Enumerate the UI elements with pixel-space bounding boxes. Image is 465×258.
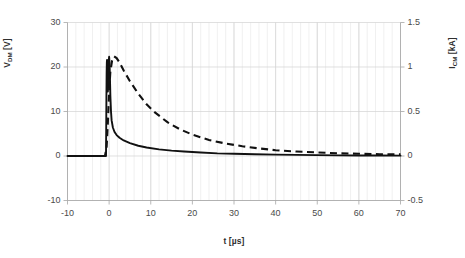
tick-label-y-left: 30 [21, 17, 61, 27]
y-right-title-sub: CM [451, 57, 458, 67]
tick-label-x: 30 [214, 208, 254, 218]
tick-label-y-left: 20 [21, 61, 61, 71]
tick-label-x: 40 [256, 208, 296, 218]
tick-label-y-left: 0 [21, 150, 61, 160]
tick-label-x: -10 [48, 208, 88, 218]
y-axis-right-title: ICM [kA] [447, 18, 458, 88]
y-axis-left-title: VDM [V] [2, 18, 13, 88]
tick-label-y-right: 1.5 [408, 17, 421, 27]
tick-label-y-right: 1 [408, 61, 413, 71]
chart-figure: 3020100-101.510.50-0.5-10010203040506070… [0, 0, 465, 258]
y-left-title-main: V [2, 62, 12, 68]
y-left-title-sub: DM [6, 52, 13, 62]
tick-label-x: 70 [381, 208, 421, 218]
y-left-title-unit: [V] [2, 38, 12, 52]
chart-background [0, 0, 465, 258]
tick-label-y-right: 0 [408, 150, 413, 160]
y-right-title-unit: [kA] [447, 37, 457, 56]
tick-label-x: 10 [131, 208, 171, 218]
tick-label-y-left: -10 [21, 195, 61, 205]
tick-label-x: 50 [297, 208, 337, 218]
tick-label-x: 60 [339, 208, 379, 218]
x-axis-title: t [µs] [67, 236, 401, 246]
tick-label-y-left: 10 [21, 106, 61, 116]
y-right-title-main: I [447, 66, 457, 68]
tick-label-y-right: -0.5 [408, 195, 424, 205]
tick-label-x: 0 [89, 208, 129, 218]
chart-plot-area [0, 0, 465, 258]
tick-label-x: 20 [172, 208, 212, 218]
tick-label-y-right: 0.5 [408, 106, 421, 116]
